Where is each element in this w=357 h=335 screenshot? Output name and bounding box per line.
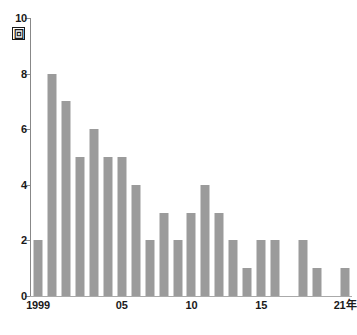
bar-slot	[157, 18, 171, 296]
plot-area	[31, 18, 352, 296]
bar-slot	[31, 18, 45, 296]
bar	[159, 213, 168, 296]
bar-chart: 0246810 回 199905101521年	[0, 0, 357, 335]
bar	[215, 213, 224, 296]
y-tick-label: 0	[1, 291, 27, 302]
bar	[103, 157, 112, 296]
bar-slot	[282, 18, 296, 296]
bar-slot	[59, 18, 73, 296]
bar	[33, 240, 42, 296]
bar	[173, 240, 182, 296]
bar-slot	[268, 18, 282, 296]
bar	[47, 74, 56, 296]
y-tick-label: 8	[1, 69, 27, 80]
y-tick-label: 6	[1, 124, 27, 135]
x-tick-label: 1999	[26, 300, 50, 311]
bar	[131, 185, 140, 296]
bar	[187, 213, 196, 296]
bar-slot	[254, 18, 268, 296]
bar-slot	[240, 18, 254, 296]
bar	[89, 129, 98, 296]
bar-slot	[115, 18, 129, 296]
bar	[299, 240, 308, 296]
y-tick-label: 4	[1, 180, 27, 191]
y-axis-unit-label: 回	[12, 27, 25, 40]
bar	[257, 240, 266, 296]
bar-slot	[212, 18, 226, 296]
bar	[75, 157, 84, 296]
bar-slot	[296, 18, 310, 296]
bar-slot	[143, 18, 157, 296]
bar-slot	[73, 18, 87, 296]
y-tick-label: 10	[1, 13, 27, 24]
bar	[145, 240, 154, 296]
bar-slot	[226, 18, 240, 296]
x-tick-label: 15	[255, 300, 267, 311]
x-tick-label: 21年	[334, 300, 357, 311]
bar-slot	[45, 18, 59, 296]
bar	[61, 101, 70, 296]
bar	[243, 268, 252, 296]
bar-slot	[171, 18, 185, 296]
bar-slot	[198, 18, 212, 296]
bar-slot	[324, 18, 338, 296]
bar	[313, 268, 322, 296]
bar	[341, 268, 350, 296]
bar-slot	[101, 18, 115, 296]
bar-slot	[338, 18, 352, 296]
bar-slot	[310, 18, 324, 296]
bar	[271, 240, 280, 296]
bar-slot	[129, 18, 143, 296]
y-tick-label: 2	[1, 235, 27, 246]
bar	[201, 185, 210, 296]
bar	[229, 240, 238, 296]
bar-slot	[185, 18, 199, 296]
x-tick-label: 10	[186, 300, 198, 311]
bar-slot	[87, 18, 101, 296]
bar	[117, 157, 126, 296]
x-tick-label: 05	[116, 300, 128, 311]
x-axis-line	[30, 296, 352, 297]
